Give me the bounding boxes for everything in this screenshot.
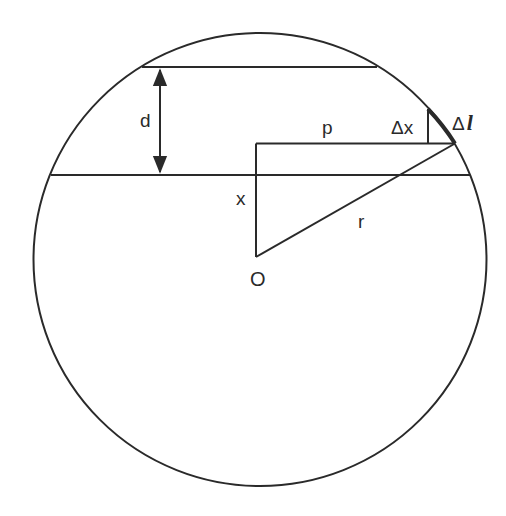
main-circle (34, 33, 487, 486)
label-d: d (140, 110, 151, 131)
delta-symbol: Δ (452, 113, 465, 134)
label-delta-x: Δx (391, 117, 414, 138)
circle-diagram: d p Δx Δl x r O (0, 0, 506, 516)
l-variable: l (467, 110, 474, 135)
label-x: x (236, 188, 246, 209)
r-line (256, 144, 455, 258)
label-origin: O (250, 268, 266, 290)
delta-l-arc (428, 109, 455, 144)
label-delta-l: Δl (452, 110, 474, 135)
label-r: r (358, 211, 365, 232)
label-p: p (322, 117, 333, 138)
